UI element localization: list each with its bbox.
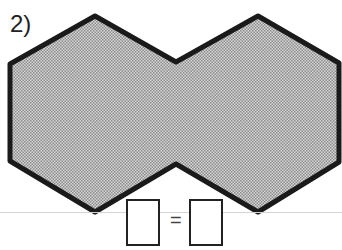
- equals-sign: =: [170, 210, 182, 230]
- answer-box-right[interactable]: [189, 199, 223, 246]
- answer-box-left[interactable]: [126, 199, 160, 246]
